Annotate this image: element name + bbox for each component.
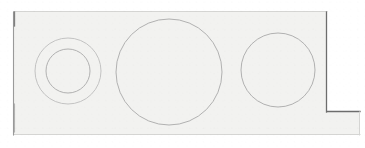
technical-drawing-canvas <box>0 0 365 148</box>
part-drawing-svg <box>0 0 365 148</box>
part-body-fill <box>14 12 360 135</box>
